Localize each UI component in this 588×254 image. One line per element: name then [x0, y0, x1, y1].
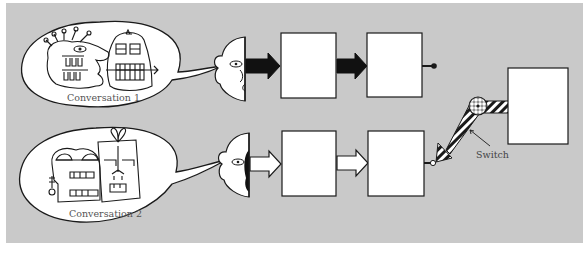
- processing-box-2a: [282, 131, 336, 196]
- output-box: [508, 68, 568, 144]
- switch-label: Switch: [476, 149, 509, 160]
- terminal-knob-closed-1: [422, 63, 437, 69]
- conversation-2-caption: Conversation 2: [69, 208, 142, 219]
- arrow-outlined-2a: [250, 151, 281, 177]
- processing-box-1b: [367, 33, 422, 97]
- conversation-1-caption: Conversation 1: [67, 92, 140, 103]
- multiplexing-diagram: Conversation 1: [0, 0, 588, 254]
- conversation-2-row: Conversation 2: [20, 127, 436, 222]
- arrow-outlined-2b: [337, 150, 368, 176]
- arrow-filled-1a: [246, 53, 280, 79]
- switch-label-pointer: [470, 130, 490, 146]
- switch: Switch: [436, 97, 509, 162]
- processing-box-2b: [368, 131, 424, 196]
- arrow-filled-1b: [337, 53, 367, 79]
- terminal-knob-open-2: [424, 160, 436, 165]
- conversation-1-row: Conversation 1: [22, 21, 437, 106]
- listener-face-2-icon: [219, 133, 249, 197]
- listener-face-1-icon: [215, 37, 245, 101]
- processing-box-1a: [281, 33, 336, 98]
